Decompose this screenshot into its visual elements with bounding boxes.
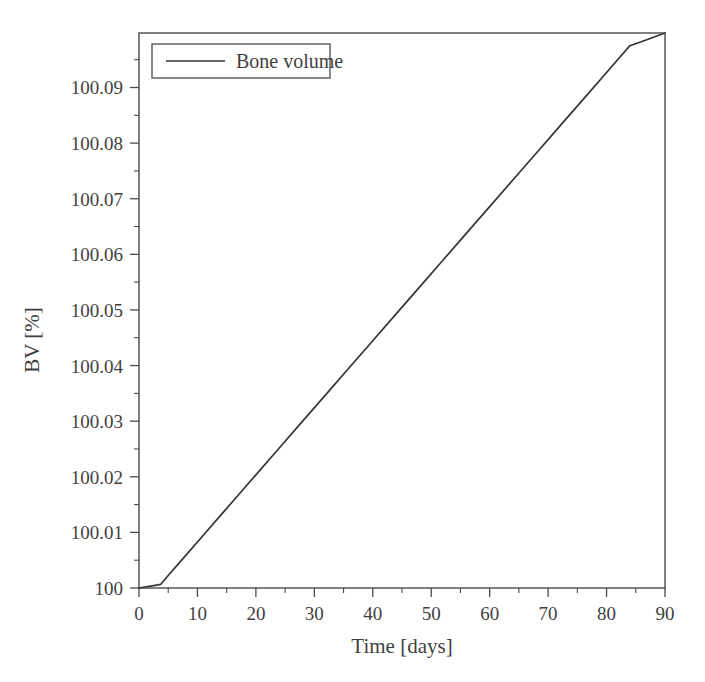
y-tick-label-100.06: 100.06: [0, 245, 123, 264]
x-tick-label-30: 30: [305, 604, 324, 623]
x-tick-label-40: 40: [363, 604, 382, 623]
x-tick-label-50: 50: [422, 604, 441, 623]
y-tick-label-100.02: 100.02: [0, 467, 123, 486]
y-tick-label-100.05: 100.05: [0, 300, 123, 319]
data-series-bone-volume: [139, 33, 665, 588]
y-tick-label-100.09: 100.09: [0, 78, 123, 97]
x-tick-label-70: 70: [539, 604, 558, 623]
y-tick-label-100.07: 100.07: [0, 189, 123, 208]
y-tick-label-100: 100: [0, 579, 123, 598]
x-tick-label-20: 20: [246, 604, 265, 623]
y-tick-label-100.04: 100.04: [0, 356, 123, 375]
x-tick-label-60: 60: [480, 604, 499, 623]
y-tick-label-100.01: 100.01: [0, 523, 123, 542]
line-chart-figure: 100100.01100.02100.03100.04100.05100.061…: [0, 0, 705, 682]
x-tick-label-80: 80: [597, 604, 616, 623]
x-tick-label-90: 90: [656, 604, 675, 623]
y-tick-label-100.08: 100.08: [0, 134, 123, 153]
legend-entry-label: Bone volume: [236, 50, 343, 73]
x-tick-label-10: 10: [188, 604, 207, 623]
x-tick-label-0: 0: [134, 604, 144, 623]
y-axis-title: BV [%]: [20, 307, 45, 373]
x-axis-minor-ticks: [168, 588, 636, 593]
plot-frame: [139, 33, 665, 588]
y-tick-label-100.03: 100.03: [0, 412, 123, 431]
x-axis-title: Time [days]: [351, 634, 452, 659]
